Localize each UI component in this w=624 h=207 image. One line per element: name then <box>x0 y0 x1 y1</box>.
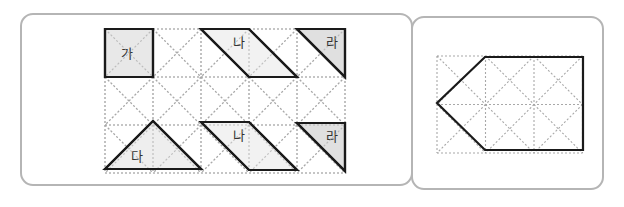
grid-diagonal <box>534 105 583 154</box>
grid-diagonal <box>437 105 486 154</box>
grid-diagonal <box>486 105 535 154</box>
right-dotted-grid <box>437 56 583 153</box>
grid-diagonal <box>486 56 535 105</box>
target-shape-outline <box>437 57 583 150</box>
puzzle-pieces: 가나라다나라 <box>105 29 345 173</box>
piece-label: 나 <box>233 128 245 143</box>
grid-diagonal <box>534 56 583 105</box>
grid-diagonal <box>486 56 535 105</box>
grid-diagonal <box>437 105 486 154</box>
piece-label: 가 <box>121 46 133 61</box>
piece-label: 나 <box>233 35 245 50</box>
diagram-canvas: 가나라다나라 <box>0 0 624 207</box>
grid-diagonal <box>534 105 583 154</box>
target-outline <box>437 57 583 150</box>
grid-diagonal <box>534 56 583 105</box>
grid-diagonal <box>486 105 535 154</box>
